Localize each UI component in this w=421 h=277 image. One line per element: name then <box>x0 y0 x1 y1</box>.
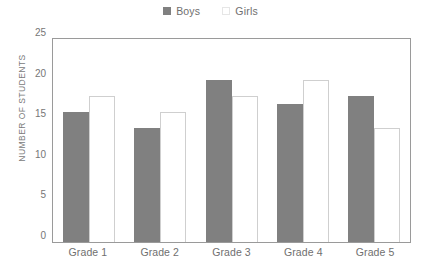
x-tick-grade-1: Grade 1 <box>52 246 124 258</box>
y-tick-15: 15 <box>26 109 46 119</box>
y-tick-10: 10 <box>26 150 46 160</box>
plot-area <box>52 38 411 243</box>
bar-girls-grade-3 <box>232 96 258 242</box>
bar-boys-grade-3 <box>206 80 232 242</box>
y-tick-0: 0 <box>26 231 46 241</box>
bar-boys-grade-5 <box>348 96 374 242</box>
y-tick-25: 25 <box>26 28 46 38</box>
y-tick-20: 20 <box>26 69 46 79</box>
x-tick-grade-3: Grade 3 <box>196 246 268 258</box>
legend-label-girls: Girls <box>235 6 258 17</box>
y-axis-tick-labels: 25 20 15 10 5 0 <box>26 33 46 245</box>
bar-group-grade-1 <box>53 39 124 242</box>
legend-swatch-girls-icon <box>222 7 230 15</box>
bar-boys-grade-4 <box>277 104 303 242</box>
bar-girls-grade-1 <box>89 96 115 242</box>
x-axis-tick-labels: Grade 1 Grade 2 Grade 3 Grade 4 Grade 5 <box>52 246 411 258</box>
x-tick-grade-2: Grade 2 <box>124 246 196 258</box>
bar-groups <box>53 39 410 242</box>
bar-girls-grade-5 <box>374 128 400 242</box>
y-tick-5: 5 <box>26 190 46 200</box>
x-tick-grade-5: Grade 5 <box>339 246 411 258</box>
bar-girls-grade-2 <box>160 112 186 242</box>
bar-group-grade-5 <box>339 39 410 242</box>
bar-girls-grade-4 <box>303 80 329 242</box>
bar-boys-grade-1 <box>63 112 89 242</box>
bar-boys-grade-2 <box>134 128 160 242</box>
legend-label-boys: Boys <box>176 6 200 17</box>
bar-chart: Boys Girls NUMBER OF STUDENTS 25 20 15 1… <box>0 0 421 277</box>
bar-group-grade-4 <box>267 39 338 242</box>
legend-swatch-boys-icon <box>163 7 171 15</box>
bar-group-grade-2 <box>124 39 195 242</box>
chart-legend: Boys Girls <box>0 6 421 17</box>
bar-group-grade-3 <box>196 39 267 242</box>
legend-entry-girls: Girls <box>222 6 258 17</box>
x-tick-grade-4: Grade 4 <box>267 246 339 258</box>
legend-entry-boys: Boys <box>163 6 200 17</box>
